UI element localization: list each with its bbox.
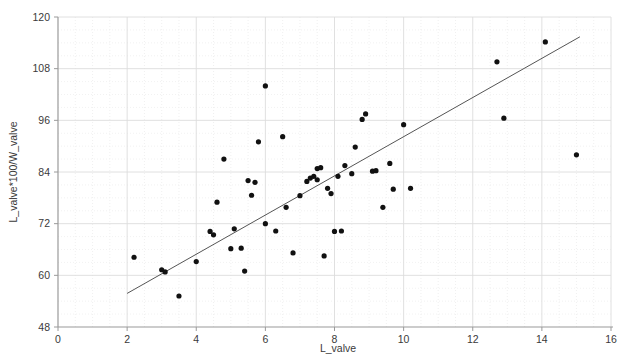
scatter-point bbox=[194, 259, 199, 264]
scatter-point bbox=[315, 177, 320, 182]
x-tick-label: 14 bbox=[536, 333, 548, 345]
scatter-point bbox=[332, 229, 337, 234]
scatter-point bbox=[228, 246, 233, 251]
scatter-point bbox=[131, 255, 136, 260]
scatter-point bbox=[322, 253, 327, 258]
scatter-point bbox=[284, 205, 289, 210]
scatter-point bbox=[342, 163, 347, 168]
y-tick-label: 84 bbox=[38, 166, 50, 178]
scatter-chart: 0246810121416 4860728496108120 L_valve L… bbox=[0, 0, 629, 364]
x-tick-label: 12 bbox=[467, 333, 479, 345]
scatter-point bbox=[543, 39, 548, 44]
x-tick-label: 4 bbox=[193, 333, 199, 345]
scatter-point bbox=[349, 171, 354, 176]
scatter-point bbox=[280, 134, 285, 139]
y-axis-title: L_valve*100/W_valve bbox=[7, 121, 19, 222]
chart-canvas: 0246810121416 4860728496108120 L_valve L… bbox=[0, 0, 629, 364]
scatter-point bbox=[249, 193, 254, 198]
y-tick-label: 120 bbox=[32, 11, 50, 23]
scatter-point bbox=[574, 152, 579, 157]
scatter-point bbox=[318, 165, 323, 170]
x-tick-label: 6 bbox=[262, 333, 268, 345]
scatter-point bbox=[252, 180, 257, 185]
scatter-point bbox=[297, 193, 302, 198]
scatter-point bbox=[245, 178, 250, 183]
y-tick-label: 96 bbox=[38, 114, 50, 126]
scatter-point bbox=[401, 122, 406, 127]
scatter-point bbox=[290, 250, 295, 255]
scatter-point bbox=[239, 246, 244, 251]
scatter-point bbox=[325, 186, 330, 191]
scatter-point bbox=[380, 205, 385, 210]
scatter-point bbox=[494, 59, 499, 64]
scatter-point bbox=[373, 168, 378, 173]
scatter-point bbox=[501, 116, 506, 121]
y-tick-label: 60 bbox=[38, 269, 50, 281]
scatter-point bbox=[363, 111, 368, 116]
x-axis-title: L_valve bbox=[320, 342, 356, 354]
x-tick-label: 0 bbox=[55, 333, 61, 345]
scatter-point bbox=[163, 269, 168, 274]
scatter-point bbox=[221, 156, 226, 161]
scatter-point bbox=[408, 186, 413, 191]
scatter-point bbox=[256, 139, 261, 144]
scatter-point bbox=[211, 232, 216, 237]
scatter-point bbox=[387, 161, 392, 166]
scatter-point bbox=[360, 117, 365, 122]
scatter-point bbox=[328, 191, 333, 196]
scatter-point bbox=[335, 174, 340, 179]
x-tick-label: 16 bbox=[605, 333, 617, 345]
scatter-point bbox=[263, 221, 268, 226]
scatter-point bbox=[232, 226, 237, 231]
y-tick-label: 72 bbox=[38, 217, 50, 229]
scatter-point bbox=[176, 293, 181, 298]
scatter-point bbox=[214, 200, 219, 205]
scatter-point bbox=[391, 187, 396, 192]
y-tick-label: 108 bbox=[32, 62, 50, 74]
scatter-point bbox=[273, 228, 278, 233]
scatter-point bbox=[263, 83, 268, 88]
scatter-point bbox=[353, 144, 358, 149]
x-tick-label: 2 bbox=[124, 333, 130, 345]
scatter-point bbox=[339, 228, 344, 233]
x-tick-label: 10 bbox=[398, 333, 410, 345]
scatter-point bbox=[242, 268, 247, 273]
y-axis-ticks: 4860728496108120 bbox=[32, 11, 58, 333]
y-tick-label: 48 bbox=[38, 321, 50, 333]
